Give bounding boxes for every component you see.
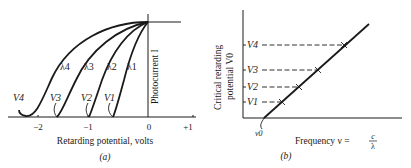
label-v1-b: V1 — [247, 96, 258, 107]
y-axis-label-b-line2: potential V0 — [225, 53, 235, 100]
tick-label-minus1: −1 — [83, 122, 93, 132]
label-lambda4: λ4 — [60, 61, 70, 72]
x-axis-label-a: Retarding potential, volts — [57, 136, 154, 146]
figure: λ4 λ3 λ2 λ1 V4 V3 V2 V1 −2 −1 0 +1 Retar… — [0, 0, 411, 168]
label-v4-a: V4 — [13, 92, 24, 103]
hook-v1 — [109, 103, 113, 117]
label-v2-b: V2 — [247, 81, 258, 92]
frac-denominator: λ — [371, 142, 375, 151]
y-axis-label-b-line1: Critical retarding — [213, 45, 223, 110]
label-v4-b: V4 — [247, 39, 258, 50]
tick-label-plus1: +1 — [183, 122, 193, 132]
tick-label-minus2: −2 — [33, 122, 43, 132]
hook-v2 — [86, 103, 89, 117]
label-v2-a: V2 — [81, 92, 92, 103]
label-v3-b: V3 — [247, 64, 258, 75]
label-v1-a: V1 — [104, 92, 115, 103]
y-axis-label-a: Photocurrent I — [150, 49, 160, 104]
panel-b-labels: V4 V3 V2 V1 ν0 Critical retarding potent… — [213, 39, 377, 162]
label-lambda1: λ1 — [127, 61, 137, 72]
label-nu0: ν0 — [255, 129, 263, 138]
caption-b: (b) — [280, 151, 291, 162]
panel-b — [243, 10, 402, 129]
label-lambda2: λ2 — [107, 61, 117, 72]
label-lambda3: λ3 — [84, 61, 94, 72]
panel-a — [8, 14, 196, 117]
panel-a-labels: λ4 λ3 λ2 λ1 V4 V3 V2 V1 −2 −1 0 +1 Retar… — [13, 49, 193, 163]
caption-a: (a) — [99, 152, 110, 163]
x-axis-label-b: Frequency ν = — [295, 136, 350, 146]
frac-numerator: c — [371, 132, 375, 141]
hook-v3 — [54, 103, 57, 117]
tick-label-0: 0 — [147, 122, 152, 132]
hook-nu0 — [261, 118, 264, 129]
label-v3-a: V3 — [50, 92, 61, 103]
